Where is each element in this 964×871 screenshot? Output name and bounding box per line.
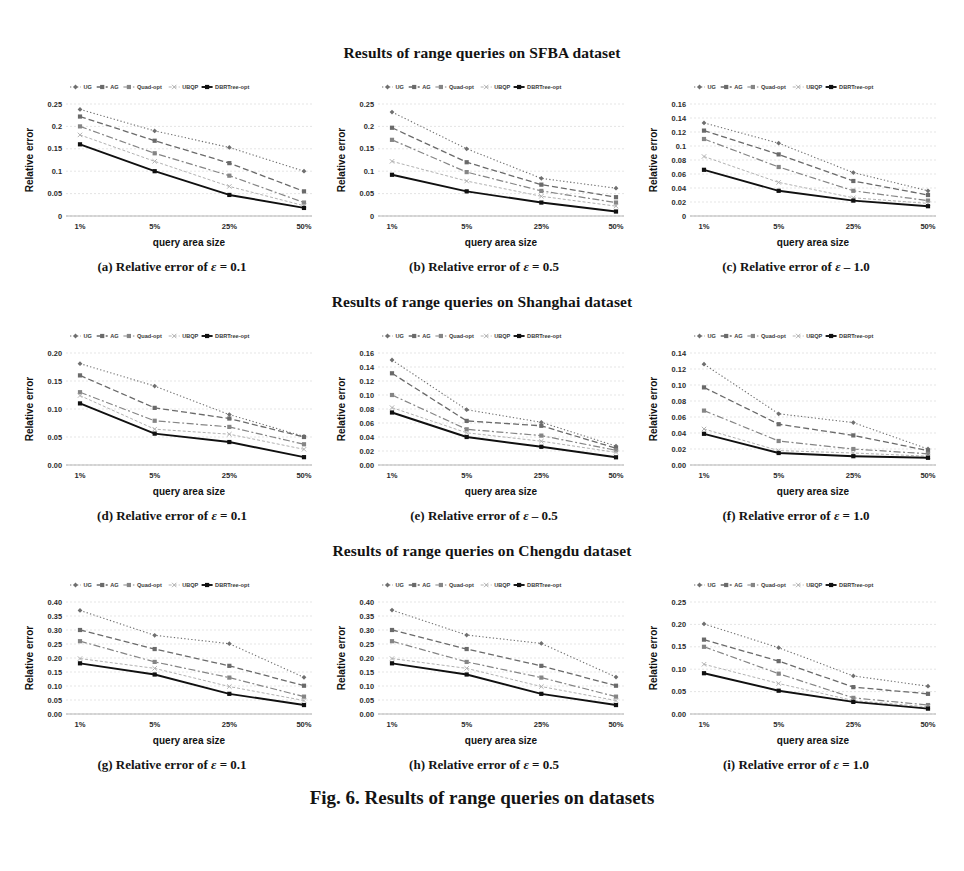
chart-panel-f[interactable]: 0.000.020.040.060.080.100.120.141%5%25%5… xyxy=(646,325,946,505)
caption-value-e: – 0.5 xyxy=(532,508,558,523)
chart-caption-h: (h) Relative error of ε = 0.5 xyxy=(409,757,559,773)
svg-text:0: 0 xyxy=(682,212,686,221)
svg-text:0.05: 0.05 xyxy=(360,189,374,198)
chart-caption-i: (i) Relative error of ε = 1.0 xyxy=(723,757,869,773)
svg-text:0.12: 0.12 xyxy=(672,128,686,137)
svg-text:0.40: 0.40 xyxy=(48,598,62,607)
svg-text:0.1: 0.1 xyxy=(364,167,374,176)
chart-panel-h[interactable]: 0.000.050.100.150.200.250.300.350.401%5%… xyxy=(334,574,634,754)
svg-text:0.14: 0.14 xyxy=(672,114,687,123)
svg-text:Relative error: Relative error xyxy=(24,626,35,691)
svg-text:0.2: 0.2 xyxy=(364,122,374,131)
svg-text:0.06: 0.06 xyxy=(672,170,686,179)
svg-text:AG: AG xyxy=(110,582,118,588)
svg-text:25%: 25% xyxy=(846,222,861,231)
chart-panel-e[interactable]: 0.000.020.040.060.080.100.120.140.161%5%… xyxy=(334,325,634,505)
svg-text:1%: 1% xyxy=(387,471,398,480)
chart-panel-c[interactable]: 00.020.040.060.080.10.120.140.161%5%25%5… xyxy=(646,76,946,256)
svg-text:0.04: 0.04 xyxy=(360,433,375,442)
svg-text:query area size: query area size xyxy=(465,486,538,497)
svg-text:0.25: 0.25 xyxy=(360,100,374,109)
svg-text:UG: UG xyxy=(708,84,716,90)
svg-text:UG: UG xyxy=(396,333,404,339)
svg-text:50%: 50% xyxy=(296,471,311,480)
chart-cell-a: 00.050.10.150.20.251%5%25%50%query area … xyxy=(22,76,322,275)
caption-prefix-e: (e) Relative error of xyxy=(410,508,520,523)
caption-epsilon-a: ε xyxy=(211,259,216,274)
svg-text:0.10: 0.10 xyxy=(48,405,62,414)
svg-text:DBRTree-opt: DBRTree-opt xyxy=(215,84,249,90)
svg-text:0: 0 xyxy=(58,212,62,221)
svg-text:0.05: 0.05 xyxy=(48,433,62,442)
caption-prefix-g: (g) Relative error of xyxy=(97,757,207,772)
chart-cell-g: 0.000.050.100.150.200.250.300.350.401%5%… xyxy=(22,574,322,773)
svg-text:query area size: query area size xyxy=(153,486,226,497)
chart-panel-a[interactable]: 00.050.10.150.20.251%5%25%50%query area … xyxy=(22,76,322,256)
chart-caption-f: (f) Relative error of ε = 1.0 xyxy=(723,508,870,524)
svg-text:0.02: 0.02 xyxy=(672,445,686,454)
svg-text:Quad-opt: Quad-opt xyxy=(137,582,162,588)
svg-text:0.35: 0.35 xyxy=(48,612,62,621)
svg-text:0.08: 0.08 xyxy=(360,405,374,414)
figure-page: Results of range queries on SFBA dataset… xyxy=(0,44,964,871)
chart-caption-c: (c) Relative error of ε – 1.0 xyxy=(722,259,869,275)
caption-prefix-f: (f) Relative error of xyxy=(723,508,831,523)
svg-text:UBQP: UBQP xyxy=(806,333,822,339)
svg-text:0.25: 0.25 xyxy=(360,640,374,649)
svg-text:Relative error: Relative error xyxy=(648,626,659,691)
svg-text:Relative error: Relative error xyxy=(336,626,347,691)
svg-text:0.35: 0.35 xyxy=(360,612,374,621)
svg-text:query area size: query area size xyxy=(153,735,226,746)
caption-value-h: = 0.5 xyxy=(532,757,559,772)
svg-text:0.30: 0.30 xyxy=(48,626,62,635)
svg-text:0.00: 0.00 xyxy=(672,461,686,470)
svg-text:query area size: query area size xyxy=(777,486,850,497)
svg-text:5%: 5% xyxy=(773,222,784,231)
chart-panel-i[interactable]: 0.000.050.100.150.200.251%5%25%50%query … xyxy=(646,574,946,754)
chart-panel-d[interactable]: 0.000.050.100.150.201%5%25%50%query area… xyxy=(22,325,322,505)
svg-text:25%: 25% xyxy=(534,720,549,729)
caption-value-a: = 0.1 xyxy=(220,259,247,274)
caption-epsilon-d: ε xyxy=(211,508,216,523)
svg-text:0.00: 0.00 xyxy=(360,461,374,470)
svg-text:UG: UG xyxy=(708,333,716,339)
chart-cell-d: 0.000.050.100.150.201%5%25%50%query area… xyxy=(22,325,322,524)
svg-text:50%: 50% xyxy=(608,471,623,480)
svg-text:0.15: 0.15 xyxy=(672,642,686,651)
svg-text:AG: AG xyxy=(110,84,118,90)
chart-panel-g[interactable]: 0.000.050.100.150.200.250.300.350.401%5%… xyxy=(22,574,322,754)
chart-caption-d: (d) Relative error of ε = 0.1 xyxy=(97,508,247,524)
svg-text:UG: UG xyxy=(84,333,92,339)
svg-text:1%: 1% xyxy=(75,720,86,729)
caption-epsilon-c: ε xyxy=(835,259,840,274)
svg-text:DBRTree-opt: DBRTree-opt xyxy=(215,582,249,588)
svg-text:0.08: 0.08 xyxy=(672,397,686,406)
svg-text:0.20: 0.20 xyxy=(672,620,686,629)
svg-text:0.04: 0.04 xyxy=(672,429,687,438)
svg-text:0.05: 0.05 xyxy=(360,696,374,705)
svg-text:UG: UG xyxy=(396,84,404,90)
svg-text:1%: 1% xyxy=(699,720,710,729)
svg-text:50%: 50% xyxy=(920,471,935,480)
svg-text:50%: 50% xyxy=(920,720,935,729)
svg-text:Relative error: Relative error xyxy=(24,128,35,193)
chart-cell-b: 00.050.10.150.20.251%5%25%50%query area … xyxy=(334,76,634,275)
caption-epsilon-i: ε xyxy=(834,757,839,772)
chart-row-chengdu: 0.000.050.100.150.200.250.300.350.401%5%… xyxy=(0,574,964,773)
svg-text:0.10: 0.10 xyxy=(672,381,686,390)
svg-text:UG: UG xyxy=(84,582,92,588)
caption-value-b: = 0.5 xyxy=(532,259,559,274)
chart-cell-e: 0.000.020.040.060.080.100.120.140.161%5%… xyxy=(334,325,634,524)
svg-text:1%: 1% xyxy=(75,471,86,480)
svg-text:1%: 1% xyxy=(699,222,710,231)
section-title-sfba: Results of range queries on SFBA dataset xyxy=(0,44,964,62)
svg-text:0.1: 0.1 xyxy=(676,142,686,151)
svg-text:50%: 50% xyxy=(608,720,623,729)
svg-text:25%: 25% xyxy=(534,222,549,231)
chart-panel-b[interactable]: 00.050.10.150.20.251%5%25%50%query area … xyxy=(334,76,634,256)
svg-text:25%: 25% xyxy=(222,471,237,480)
svg-text:Relative error: Relative error xyxy=(648,128,659,193)
svg-text:0.00: 0.00 xyxy=(672,710,686,719)
figure-caption: Fig. 6. Results of range queries on data… xyxy=(0,787,964,809)
svg-text:AG: AG xyxy=(422,333,430,339)
